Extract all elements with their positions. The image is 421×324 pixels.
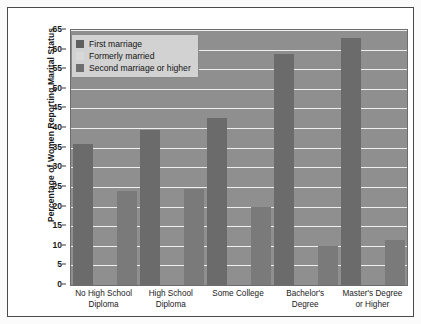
x-tick-label: Bachelor'sDegree	[272, 289, 339, 310]
legend-item: Formerly married	[76, 50, 191, 62]
x-tick-label: Master's Degreeor Higher	[339, 289, 406, 310]
x-axis-ticks: No High SchoolDiplomaHigh SchoolDiplomaS…	[70, 289, 408, 319]
y-tick-label: 20	[34, 201, 62, 210]
x-tick-label-line: Some College	[204, 289, 271, 300]
y-tick-label: 35	[34, 142, 62, 151]
x-tick-label-line: Diploma	[137, 300, 204, 311]
y-tick-mark	[62, 29, 66, 30]
y-tick-label: 30	[34, 162, 62, 171]
bar-group	[273, 30, 340, 285]
x-tick-label-line: Bachelor's	[272, 289, 339, 300]
y-tick-mark	[62, 244, 66, 245]
x-tick-label-line: Degree	[272, 300, 339, 311]
legend-item: First marriage	[76, 38, 191, 50]
y-tick-mark	[62, 264, 66, 265]
y-tick-mark	[62, 166, 66, 167]
chart-page: Percentage of Women Reporting Marital St…	[0, 0, 421, 324]
bar	[184, 189, 204, 285]
y-tick-label: 15	[34, 221, 62, 230]
bar	[73, 144, 93, 285]
x-tick-label-line: Diploma	[70, 300, 137, 311]
x-tick-label-line: High School	[137, 289, 204, 300]
legend-label: First marriage	[89, 39, 142, 49]
legend-swatch	[76, 64, 84, 72]
y-tick-mark	[62, 68, 66, 69]
y-axis-ticks: 05101520253035404550556065	[8, 29, 66, 286]
bar	[117, 191, 137, 285]
x-tick-label-line: Master's Degree	[339, 289, 406, 300]
x-tick-label: No High SchoolDiploma	[70, 289, 137, 310]
legend-swatch	[76, 52, 84, 60]
y-tick-label: 65	[34, 25, 62, 34]
x-tick-label: Some College	[204, 289, 271, 300]
y-tick-mark	[62, 185, 66, 186]
bar	[318, 246, 338, 285]
bar	[140, 130, 160, 285]
chart-legend: First marriageFormerly marriedSecond mar…	[71, 34, 199, 78]
legend-swatch	[76, 40, 84, 48]
y-tick-mark	[62, 284, 66, 285]
y-tick-mark	[62, 127, 66, 128]
bar	[207, 118, 227, 285]
y-tick-label: 5	[34, 260, 62, 269]
y-tick-mark	[62, 48, 66, 49]
y-tick-label: 25	[34, 182, 62, 191]
y-tick-label: 50	[34, 84, 62, 93]
legend-label: Second marriage or higher	[89, 63, 191, 73]
y-tick-mark	[62, 205, 66, 206]
x-tick-label-line: No High School	[70, 289, 137, 300]
x-tick-label-line: or Higher	[339, 300, 406, 311]
y-tick-mark	[62, 146, 66, 147]
y-tick-label: 45	[34, 103, 62, 112]
bar	[274, 54, 294, 285]
chart-frame: Percentage of Women Reporting Marital St…	[7, 7, 414, 317]
bar-group	[205, 30, 272, 285]
y-tick-mark	[62, 87, 66, 88]
y-tick-mark	[62, 225, 66, 226]
legend-label: Formerly married	[89, 51, 154, 61]
legend-item: Second marriage or higher	[76, 62, 191, 74]
y-tick-label: 40	[34, 123, 62, 132]
y-tick-label: 10	[34, 241, 62, 250]
y-tick-label: 60	[34, 44, 62, 53]
bar	[341, 38, 361, 285]
bar	[385, 240, 405, 285]
x-tick-label: High SchoolDiploma	[137, 289, 204, 310]
y-tick-label: 55	[34, 64, 62, 73]
bar-group	[340, 30, 407, 285]
bar	[251, 207, 271, 285]
y-tick-label: 0	[34, 280, 62, 289]
y-tick-mark	[62, 107, 66, 108]
